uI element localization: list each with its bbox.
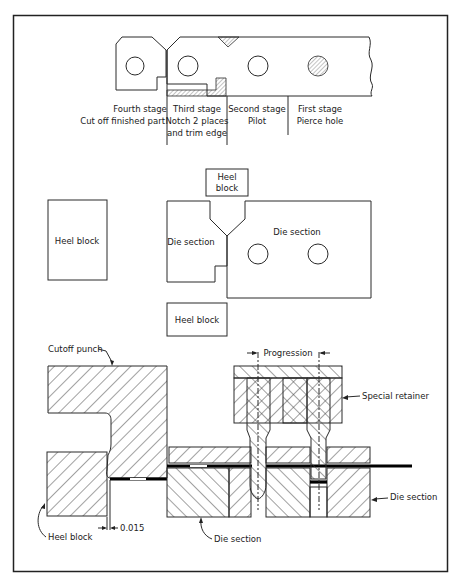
die-hole-2	[308, 244, 328, 264]
special-retainer-label: Special retainer	[362, 391, 429, 401]
heel-block-left-label: Heel block	[55, 236, 100, 246]
heel-block-top-label: Heel	[217, 172, 236, 182]
stage-3-op2: and trim edge	[167, 128, 227, 138]
progressive-die-diagram: Fourth stage Cut off finished part Third…	[0, 0, 460, 585]
die-hole-1	[248, 244, 268, 264]
section-view: Cutoff punch	[38, 344, 437, 544]
heel-block-top-label2: block	[216, 183, 239, 193]
stage-1-op: Pierce hole	[297, 116, 344, 126]
die-section-left-label: Die section	[167, 237, 214, 247]
stage-2-op: Pilot	[248, 116, 267, 126]
stage-4-op: Cut off finished part	[80, 116, 165, 126]
heel-block-section	[47, 452, 107, 516]
stage-3-op: Notch 2 places	[165, 116, 229, 126]
finished-part	[116, 37, 166, 90]
pierced-hole	[308, 56, 328, 76]
progression-label: Progression	[263, 348, 312, 358]
stage-4-name: Fourth stage	[113, 104, 167, 114]
plan-view: Heel block Heel block Die section Die se…	[48, 169, 371, 336]
die-section-lower	[167, 468, 229, 517]
heel-block-bottom-label: Heel block	[175, 315, 220, 325]
cutoff-punch-label: Cutoff punch	[48, 344, 103, 354]
stage-1-name: First stage	[298, 104, 342, 114]
punch-plate	[234, 366, 342, 378]
stage-3-name: Third stage	[172, 104, 221, 114]
die-section-bottom-label: Die section	[214, 534, 261, 544]
die-section-right-section-label: Die section	[390, 492, 437, 502]
die-section-right-label: Die section	[273, 227, 320, 237]
clearance-label: 0.015	[120, 523, 144, 533]
stage-2-name: Second stage	[228, 104, 286, 114]
strip-layout: Fourth stage Cut off finished part Third…	[80, 37, 372, 145]
heel-block-section-label: Heel block	[48, 532, 93, 542]
